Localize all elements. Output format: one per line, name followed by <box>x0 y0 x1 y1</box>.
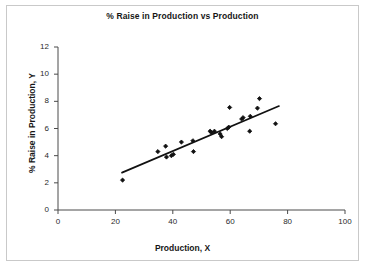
data-point <box>156 149 160 153</box>
y-axis-tick-label: 8 <box>27 96 49 105</box>
x-axis-tick-label: 20 <box>103 217 127 226</box>
y-axis-tick-label: 0 <box>27 205 49 214</box>
data-point <box>228 105 232 109</box>
x-axis-tick-label: 40 <box>161 217 185 226</box>
data-point <box>255 106 259 110</box>
y-axis-tick-label: 6 <box>27 124 49 133</box>
data-point <box>191 149 195 153</box>
x-axis-tick-label: 80 <box>276 217 300 226</box>
chart-figure: % Raise in Production vs Production % Ra… <box>0 0 365 267</box>
data-point <box>248 129 252 133</box>
x-axis-tick-label: 60 <box>218 217 242 226</box>
y-axis-tick-label: 10 <box>27 69 49 78</box>
plot-area <box>0 0 365 267</box>
data-point <box>120 178 124 182</box>
y-axis-tick-label: 12 <box>27 42 49 51</box>
x-axis-title: Production, X <box>0 243 365 253</box>
data-point <box>273 122 277 126</box>
x-axis-tick-label: 0 <box>46 217 70 226</box>
data-point <box>179 140 183 144</box>
y-axis-tick-label: 2 <box>27 178 49 187</box>
x-axis-tick-label: 100 <box>333 217 357 226</box>
data-point <box>164 144 168 148</box>
y-axis-tick-label: 4 <box>27 151 49 160</box>
data-point <box>257 97 261 101</box>
data-point <box>164 155 168 159</box>
trend-line <box>122 106 279 173</box>
